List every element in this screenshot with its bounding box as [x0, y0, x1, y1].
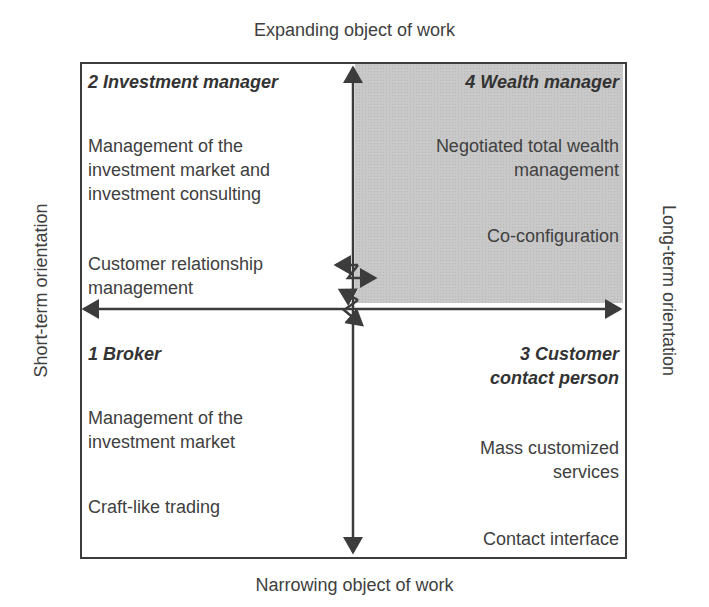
axes-overlay — [0, 0, 709, 607]
zigzag-transition-arrows — [336, 265, 375, 325]
